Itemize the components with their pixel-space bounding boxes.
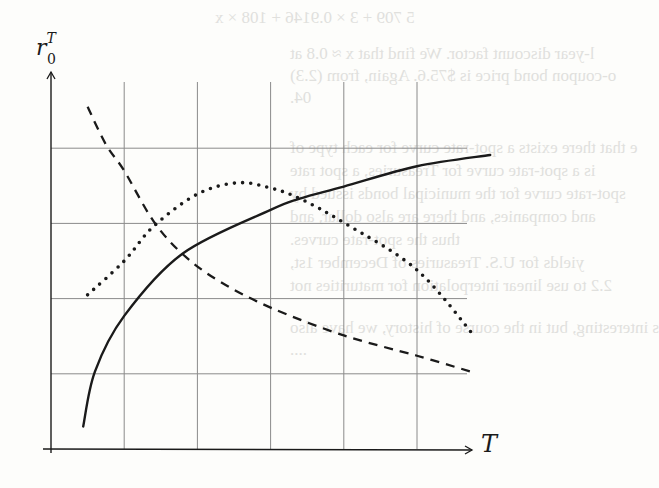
y-axis-label: rT0 [36,34,65,64]
x-axis [43,449,472,450]
gridlines [51,82,467,449]
curves [83,107,490,427]
axes [43,72,472,454]
solid-curve [83,155,490,426]
x-axis-label: T [481,430,497,458]
